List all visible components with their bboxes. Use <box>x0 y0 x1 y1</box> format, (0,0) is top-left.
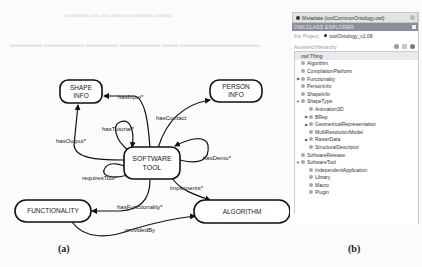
tree-item[interactable]: StructuralDescriptor <box>295 143 418 151</box>
tree-item-label: RasterData <box>315 136 340 142</box>
tab-status-icon <box>296 16 300 20</box>
tree-item-label: Plugin <box>315 189 329 195</box>
class-icon <box>309 115 313 119</box>
tree-item-label: StructuralDescriptor <box>315 144 359 150</box>
for-project-row: For Project: toolOntology_v1.08 <box>292 31 418 40</box>
tree-item[interactable]: ▶Functionality <box>295 75 418 83</box>
node-label: PERSON <box>222 83 250 90</box>
class-icon <box>309 145 313 149</box>
class-icon <box>309 168 313 172</box>
tree-item-owl-thing[interactable]: owl:Thing <box>295 52 418 60</box>
tree-item-label: MultiResolutionModel <box>315 129 363 135</box>
tree-item-label: Animation3D <box>315 106 344 112</box>
class-icon <box>301 84 305 88</box>
hierarchy-label: Asserted Hierarchy <box>294 44 337 50</box>
class-icon <box>301 69 305 73</box>
tree-item[interactable]: Plugin <box>295 189 418 197</box>
class-icon <box>301 92 305 96</box>
delete-class-icon[interactable] <box>410 44 415 49</box>
class-icon <box>301 61 305 65</box>
tree-item-label: GeometricalRepresentation <box>315 121 376 127</box>
tree-item[interactable]: Animation3D <box>295 105 418 113</box>
tree-item-label: ShapeInfo <box>307 91 330 97</box>
edge-label-has-output: hasOutput* <box>56 138 87 144</box>
edge-label-provided-by: providedBy <box>125 227 155 233</box>
class-hierarchy-tree: owl:Thing Algorithm CompilationPlatform … <box>294 51 418 214</box>
edge-label-has-functionality: hasFunctionality* <box>117 204 163 210</box>
class-icon <box>309 183 313 187</box>
tree-item[interactable]: ▶RasterData <box>295 136 418 144</box>
edge-label-has-contact: hasContact <box>156 115 187 121</box>
owl-class-explorer-panel: Metadata (toolCommonOntology.owl) OWLCLA… <box>292 12 419 224</box>
caption-a: (a) <box>58 243 70 254</box>
tree-item-label: Library <box>315 174 330 180</box>
tree-item-label: SoftwareRelease <box>307 152 345 158</box>
node-label: ALGORITHM <box>223 208 262 215</box>
edge-label-implements: implements* <box>170 185 204 191</box>
class-icon <box>301 153 305 157</box>
tree-item[interactable]: ▼ShapeType <box>295 98 418 106</box>
tree-item-label: Functionality <box>307 76 335 82</box>
node-label: SOFTWARE <box>132 155 172 162</box>
tree-item-label: IndependentApplication <box>315 167 367 173</box>
class-icon <box>309 190 313 194</box>
panel-maximize-icon[interactable] <box>412 25 416 29</box>
class-icon <box>301 160 305 164</box>
class-icon <box>309 137 313 141</box>
add-sibling-icon[interactable] <box>402 44 407 49</box>
caption-b: (b) <box>348 243 360 254</box>
tree-item[interactable]: Macro <box>295 181 418 189</box>
class-icon <box>301 77 305 81</box>
edge-label-has-tutorial: hasTutorial* <box>102 126 134 132</box>
metadata-tab[interactable]: Metadata (toolCommonOntology.owl) <box>292 12 418 23</box>
tree-item[interactable]: Library <box>295 174 418 182</box>
class-icon <box>309 122 313 126</box>
panel-title: OWLCLASS EXPLORER <box>294 24 354 30</box>
tree-item-label: owl:Thing <box>301 53 322 59</box>
panel-titlebar: OWLCLASS EXPLORER <box>292 23 418 31</box>
edge-label-requires-tool: requiresTool* <box>82 175 118 181</box>
tree-item-label: Algorithm <box>307 60 328 66</box>
add-subclass-icon[interactable] <box>394 44 399 49</box>
tree-item-label: CompilationPlatform <box>307 68 352 74</box>
tree-item[interactable]: ShapeInfo <box>295 90 418 98</box>
class-icon <box>309 107 313 111</box>
project-name: toolOntology_v1.08 <box>329 33 372 39</box>
class-icon <box>309 175 313 179</box>
node-label: SHAPE <box>70 84 93 91</box>
project-icon <box>324 34 328 38</box>
for-project-label: For Project: <box>294 33 320 39</box>
node-label: INFO <box>228 91 244 98</box>
node-label: FUNCTIONALITY <box>27 207 79 214</box>
class-icon <box>309 130 313 134</box>
tree-item-label: SoftwareTool <box>307 159 336 165</box>
edge-label-has-input: hasInput* <box>118 94 144 100</box>
tree-item[interactable]: IndependentApplication <box>295 166 418 174</box>
next-tab-icon[interactable] <box>410 15 415 20</box>
ontology-graph: SHAPE INFO PERSON INFO SOFTWARE TOOL FUN… <box>0 0 290 240</box>
tree-item-label: Macro <box>315 182 329 188</box>
tree-item[interactable]: Algorithm <box>295 60 418 68</box>
tree-item-label: ShapeType <box>307 98 332 104</box>
tree-item-label: PersonInfo <box>307 83 331 89</box>
node-label: TOOL <box>143 164 162 171</box>
class-icon <box>301 99 305 103</box>
tree-item-label: BRep <box>315 114 328 120</box>
node-software-tool <box>124 147 180 179</box>
tree-item[interactable]: ▼SoftwareTool <box>295 158 418 166</box>
edge-has-contact <box>158 100 210 148</box>
edge-label-has-demo: hasDemo* <box>203 155 232 161</box>
hierarchy-header: Asserted Hierarchy <box>292 42 418 51</box>
tree-item[interactable]: CompilationPlatform <box>295 67 418 75</box>
tree-item[interactable]: SoftwareRelease <box>295 151 418 159</box>
tab-title: Metadata (toolCommonOntology.owl) <box>302 15 384 21</box>
tree-item[interactable]: PersonInfo <box>295 82 418 90</box>
tree-item[interactable]: ▶BRep <box>295 113 418 121</box>
node-label: INFO <box>73 92 89 99</box>
tree-item[interactable]: ▶GeometricalRepresentation <box>295 120 418 128</box>
tree-item[interactable]: MultiResolutionModel <box>295 128 418 136</box>
